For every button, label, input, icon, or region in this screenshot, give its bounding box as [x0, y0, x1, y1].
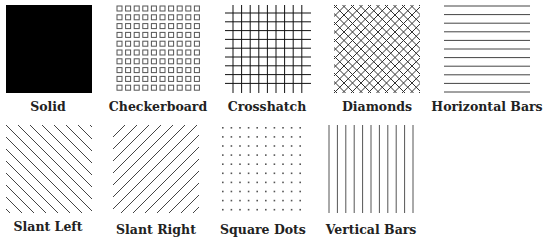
- checkerboard-pattern-swatch[interactable]: [116, 5, 202, 93]
- solid-pattern-swatch[interactable]: [6, 5, 92, 93]
- diamonds-pattern-swatch[interactable]: [334, 5, 420, 93]
- vertical-bars-label: Vertical Bars: [306, 222, 436, 237]
- crosshatch-pattern-swatch[interactable]: [225, 5, 311, 93]
- horizontal-bars-label: Horizontal Bars: [422, 99, 547, 114]
- slant-right-pattern-swatch[interactable]: [113, 125, 199, 213]
- square-dots-pattern-swatch[interactable]: [220, 125, 306, 213]
- slant-left-pattern-swatch[interactable]: [6, 125, 92, 213]
- vertical-bars-pattern-swatch[interactable]: [328, 125, 414, 213]
- horizontal-bars-pattern-swatch[interactable]: [444, 5, 530, 93]
